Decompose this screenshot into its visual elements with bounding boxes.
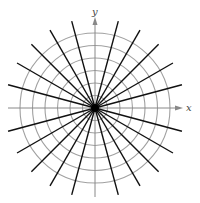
origin-point bbox=[91, 104, 99, 112]
x-axis-label: x bbox=[186, 102, 192, 113]
y-axis-arrow-icon bbox=[93, 17, 98, 25]
polar-grid-diagram: x y bbox=[0, 0, 200, 203]
y-axis-label: y bbox=[91, 6, 98, 17]
x-axis-arrow-icon bbox=[175, 106, 183, 111]
